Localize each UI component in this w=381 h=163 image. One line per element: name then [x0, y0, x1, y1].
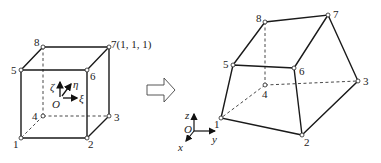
node-label-8: 8 — [256, 12, 262, 24]
node-label-3: 3 — [363, 75, 369, 87]
node-label-7: 7 — [333, 8, 339, 20]
global-axes: z O y x — [177, 109, 217, 153]
origin-label: O — [184, 123, 192, 135]
node-1-marker — [219, 116, 223, 120]
node-6-marker — [292, 66, 296, 70]
right-face-edges — [87, 47, 109, 138]
isoparametric-mapping-diagram: ζ η ξ O 1 2 3 4 5 6 7(1, 1, 1) 8 1 2 3 4… — [0, 0, 381, 163]
reference-cube: ζ η ξ O 1 2 3 4 5 6 7(1, 1, 1) 8 — [11, 36, 152, 150]
node-label-3: 3 — [114, 111, 120, 123]
node-label-7: 7(1, 1, 1) — [111, 38, 152, 51]
node-3-marker — [356, 79, 360, 83]
node-6-marker — [85, 68, 89, 72]
node-label-6: 6 — [299, 65, 305, 77]
right-face-edges — [302, 15, 358, 135]
zeta-label: ζ — [50, 81, 56, 94]
node-label-4: 4 — [32, 110, 38, 122]
node-1-marker — [19, 136, 23, 140]
node-label-2: 2 — [88, 138, 94, 150]
node-4-marker — [41, 114, 45, 118]
xi-label: ξ — [79, 92, 84, 105]
front-face — [221, 65, 302, 135]
node-label-2: 2 — [304, 136, 310, 148]
node-7-marker — [326, 13, 330, 17]
node-label-1: 1 — [214, 118, 220, 130]
node-5-marker — [231, 63, 235, 67]
mapped-hexahedron: 1 2 3 4 5 6 7 8 z O y x — [177, 8, 369, 153]
hidden-edge-4-3 — [265, 81, 358, 85]
node-label-8: 8 — [34, 36, 40, 48]
mapping-arrow-icon — [147, 78, 175, 102]
eta-axis-arrow — [62, 84, 71, 96]
natural-axes: ζ η ξ O — [50, 78, 84, 110]
node-5-marker — [19, 68, 23, 72]
x-label: x — [177, 141, 183, 153]
node-8-marker — [263, 20, 267, 24]
node-label-5: 5 — [11, 64, 17, 76]
node-8-marker — [41, 45, 45, 49]
node-3-marker — [107, 114, 111, 118]
node-label-6: 6 — [90, 70, 96, 82]
y-label: y — [211, 133, 217, 145]
top-face-edges — [21, 47, 109, 70]
node-4-marker — [263, 83, 267, 87]
node-label-1: 1 — [13, 138, 19, 150]
origin-label: O — [52, 98, 60, 110]
eta-label: η — [73, 78, 78, 90]
node-label-4: 4 — [262, 88, 268, 100]
node-label-5: 5 — [223, 58, 229, 70]
z-label: z — [184, 109, 190, 121]
top-face-edges — [233, 15, 328, 68]
